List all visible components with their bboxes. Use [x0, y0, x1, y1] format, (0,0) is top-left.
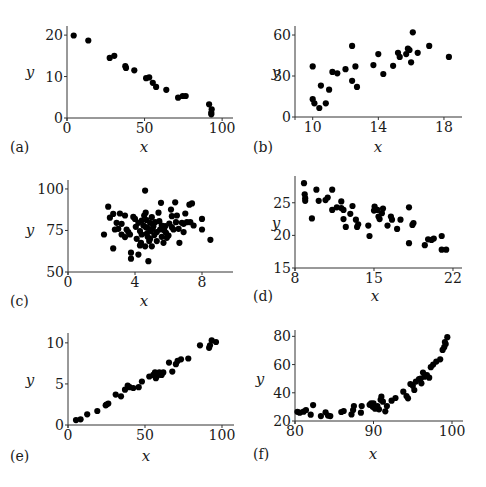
y-tick-label: 0	[282, 109, 291, 125]
y-tick-label: 0	[54, 110, 63, 126]
data-points	[71, 32, 215, 117]
y-tick-label: 0	[55, 417, 64, 433]
data-point	[165, 232, 171, 238]
y-axis-label: y	[25, 63, 35, 81]
data-point	[397, 54, 403, 60]
y-tick-label: 60	[273, 357, 291, 373]
data-point	[302, 198, 308, 204]
data-point	[410, 383, 416, 389]
data-point	[379, 210, 385, 216]
x-tick-label: 100	[209, 120, 236, 136]
data-point	[308, 412, 314, 418]
data-point	[410, 29, 416, 35]
data-point	[397, 217, 403, 223]
y-tick-label: 75	[46, 222, 64, 238]
data-point	[105, 204, 111, 210]
data-point	[94, 408, 100, 414]
data-point	[406, 240, 412, 246]
data-points	[294, 334, 450, 419]
data-point	[354, 84, 360, 90]
data-point	[340, 207, 346, 213]
data-point	[161, 227, 167, 233]
data-point	[169, 369, 175, 375]
data-point	[349, 43, 355, 49]
data-point	[136, 384, 142, 390]
data-point	[327, 413, 333, 419]
y-tick-label: 40	[273, 385, 291, 401]
x-axis-label: x	[140, 138, 149, 156]
data-point	[437, 356, 443, 362]
data-point	[110, 245, 116, 251]
x-axis-label: x	[142, 447, 151, 465]
panel-e: 0501000510xy(e)	[10, 333, 235, 465]
data-point	[154, 238, 160, 244]
data-point	[84, 411, 90, 417]
data-point	[405, 395, 411, 401]
data-point	[316, 105, 322, 111]
data-point	[199, 226, 205, 232]
data-point	[185, 355, 191, 361]
data-point	[310, 402, 316, 408]
data-points	[301, 180, 449, 253]
data-point	[384, 403, 390, 409]
data-point	[342, 66, 348, 72]
data-point	[415, 50, 421, 56]
data-point	[446, 54, 452, 60]
data-point	[78, 416, 84, 422]
data-point	[443, 247, 449, 253]
data-point	[122, 212, 128, 218]
y-tick-label: 100	[37, 181, 64, 197]
x-tick-label: 50	[136, 427, 154, 443]
y-tick-label: 10	[46, 335, 64, 351]
y-tick-label: 25	[273, 195, 291, 211]
data-point	[174, 212, 180, 218]
data-point	[168, 207, 174, 213]
data-point	[431, 236, 437, 242]
data-point	[153, 84, 159, 90]
x-tick-label: 8	[291, 270, 300, 286]
data-point	[380, 71, 386, 77]
data-point	[340, 216, 346, 222]
data-point	[378, 397, 384, 403]
data-point	[208, 111, 214, 117]
data-point	[123, 65, 129, 71]
data-point	[343, 224, 349, 230]
data-point	[128, 256, 134, 262]
y-axis-label: y	[255, 370, 265, 388]
x-tick-label: 90	[365, 423, 383, 439]
panel-d: 81522152025xy(d)	[253, 176, 462, 305]
data-points	[101, 188, 214, 265]
data-point	[187, 219, 193, 225]
panel-label: (d)	[253, 288, 273, 304]
data-point	[137, 242, 143, 248]
data-point	[139, 378, 145, 384]
data-point	[375, 51, 381, 57]
data-point	[384, 223, 390, 229]
data-point	[173, 219, 179, 225]
data-point	[439, 233, 445, 239]
data-point	[189, 200, 195, 206]
panel-label: (e)	[10, 448, 29, 464]
data-point	[422, 242, 428, 248]
data-point	[418, 376, 424, 382]
data-point	[410, 220, 416, 226]
y-tick-label: 10	[45, 69, 63, 85]
x-tick-label: 100	[209, 427, 236, 443]
panel-label: (c)	[10, 293, 29, 309]
data-point	[311, 100, 317, 106]
x-axis-label: x	[374, 138, 383, 156]
data-point	[199, 216, 205, 222]
panel-label: (b)	[253, 139, 273, 155]
data-point	[329, 187, 335, 193]
data-point	[169, 224, 175, 230]
data-point	[85, 37, 91, 43]
data-point	[183, 93, 189, 99]
data-point	[181, 229, 187, 235]
data-point	[131, 67, 137, 73]
x-tick-label: 100	[439, 423, 466, 439]
data-point	[309, 215, 315, 221]
data-point	[132, 216, 138, 222]
data-point	[316, 198, 322, 204]
data-point	[181, 221, 187, 227]
y-axis-label: y	[271, 214, 281, 232]
